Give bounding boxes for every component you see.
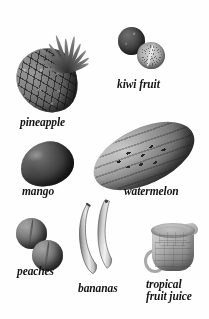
cup-measure-markings — [159, 232, 187, 246]
label-peaches: peaches — [17, 266, 54, 278]
pineapple-icon — [14, 18, 106, 118]
pineapple-crown — [54, 18, 110, 66]
measuring-cup-icon — [145, 219, 203, 279]
label-kiwi-fruit: kiwi fruit — [117, 79, 160, 91]
kiwi-fruit-icon — [118, 27, 180, 75]
label-bananas: bananas — [78, 283, 118, 295]
bananas-icon — [76, 198, 136, 284]
label-watermelon: watermelon — [124, 186, 179, 198]
label-tropical-fruit-juice: tropical fruit juice — [146, 279, 192, 302]
fruit-illustration-plate: pineapple kiwi fruit mango watermelon pe… — [0, 0, 209, 319]
banana-fruit — [92, 197, 120, 273]
label-pineapple: pineapple — [20, 117, 65, 129]
mango-body — [15, 136, 78, 192]
label-mango: mango — [22, 186, 54, 198]
watermelon-icon — [88, 126, 206, 188]
